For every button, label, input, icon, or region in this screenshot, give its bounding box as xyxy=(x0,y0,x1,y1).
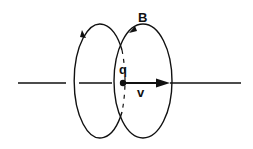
velocity-arrow xyxy=(123,79,170,88)
label-q: q xyxy=(119,63,127,76)
label-B: B xyxy=(138,11,147,24)
velocity-arrowhead-icon xyxy=(156,79,170,88)
label-v: v xyxy=(137,86,144,99)
field-loop-left xyxy=(74,24,122,138)
